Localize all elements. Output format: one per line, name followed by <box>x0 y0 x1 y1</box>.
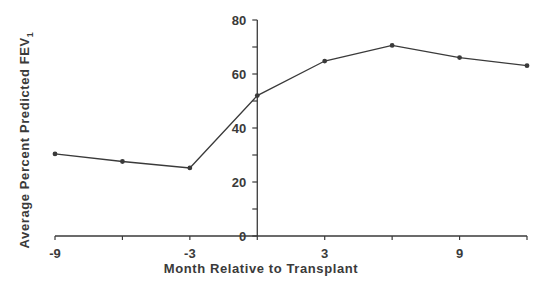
x-tick-label: 3 <box>321 246 328 261</box>
data-line <box>55 45 527 168</box>
x-tick-label: 9 <box>456 246 463 261</box>
data-point <box>53 152 58 157</box>
y-tick-label: 40 <box>232 121 246 136</box>
data-point <box>255 93 260 98</box>
y-axis-title-subscript: 1 <box>25 32 35 38</box>
x-tick-label: -3 <box>184 246 196 261</box>
x-tick-label: -9 <box>49 246 61 261</box>
data-point <box>390 43 395 48</box>
data-point <box>322 59 327 64</box>
y-tick-label: 60 <box>232 67 246 82</box>
y-tick-label: 20 <box>232 175 246 190</box>
y-tick-label: 80 <box>232 13 246 28</box>
data-point <box>187 166 192 171</box>
data-point <box>525 63 530 68</box>
line-chart: -9-339020406080Month Relative to Transpl… <box>0 0 548 291</box>
data-point <box>120 159 125 164</box>
x-axis-title: Month Relative to Transplant <box>164 261 359 276</box>
y-tick-label: 0 <box>239 229 246 244</box>
data-point <box>457 55 462 60</box>
y-axis-title: Average Percent Predicted FEV1 <box>17 32 35 249</box>
